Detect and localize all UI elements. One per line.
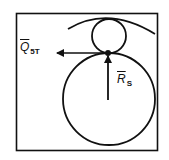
label-q-symbol: Q (20, 40, 29, 54)
contact-point (105, 50, 111, 56)
outer-arc (68, 18, 155, 34)
large-circle (63, 53, 155, 145)
label-r-symbol: R (117, 72, 126, 86)
label-q5t: Q5T (20, 40, 40, 54)
frame (17, 14, 158, 151)
label-rs: RS (117, 72, 132, 86)
label-q-subscript: 5T (30, 47, 39, 56)
label-r-subscript: S (127, 79, 132, 88)
small-circle (92, 19, 126, 53)
force-diagram (0, 0, 169, 160)
